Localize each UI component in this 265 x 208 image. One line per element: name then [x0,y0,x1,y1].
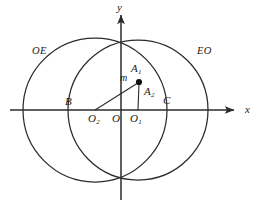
segment-o2-a1 [95,83,138,110]
geometry-figure: x y OE EO A1 m A2 B C O2 O O1 [0,0,265,208]
segment-m-label: m [120,73,127,83]
x-axis-label: x [245,104,250,115]
y-axis-label: y [117,2,122,13]
point-a1-marker [136,79,142,85]
point-a2-label: A2 [144,86,155,99]
figure-canvas [0,0,265,208]
point-o2-label: O2 [88,113,100,126]
point-c-label: C [163,95,170,106]
point-o1-label: O1 [130,113,142,126]
point-a1-subscript: 1 [138,68,142,76]
point-o2-letter: O [88,112,96,124]
point-a2-subscript: 2 [151,91,155,99]
region-label-right: EO [197,46,212,57]
point-o1-letter: O [130,112,138,124]
point-a1-letter: A [131,62,138,74]
point-b-label: B [65,96,72,107]
region-label-left: OE [32,46,47,57]
segment-o1-a1 [138,84,139,111]
point-o2-subscript: 2 [96,118,100,126]
point-a2-letter: A [144,85,151,97]
point-a1-label: A1 [131,63,142,76]
origin-label: O [112,113,120,124]
point-o1-subscript: 1 [138,118,142,126]
